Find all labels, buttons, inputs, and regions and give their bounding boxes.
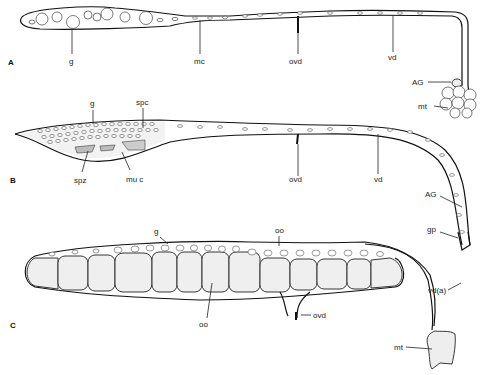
label-a-mc: mc (194, 57, 205, 66)
label-c-vda: vd(a) (428, 286, 447, 295)
panel-label-c: C (10, 321, 16, 330)
oviduct-c-left (280, 292, 288, 316)
label-b-g: g (90, 99, 94, 108)
label-c-mt: mt (394, 343, 404, 352)
label-b-spz: spz (74, 176, 86, 185)
label-b-vd: vd (374, 175, 382, 184)
label-b-spc: spc (136, 98, 148, 107)
label-b-ag: AG (425, 190, 437, 199)
oocytes-c (27, 252, 402, 292)
label-b-ovd: ovd (289, 175, 302, 184)
label-c-oo-bottom: oo (199, 320, 208, 329)
label-a-ovd: ovd (289, 57, 302, 66)
label-a-g: g (69, 57, 73, 66)
oviduct-b (297, 134, 298, 144)
gonad-diagram: A g mc ovd vd AG mt (0, 0, 481, 375)
label-c-g: g (154, 227, 158, 236)
gonad-a-inner (21, 15, 462, 86)
label-b-muc: mu c (126, 175, 143, 184)
label-a-vd: vd (388, 53, 396, 62)
panel-b: B g spc spz mu c ovd vd AG gp (10, 98, 470, 250)
terminal-mass-a (440, 79, 476, 118)
duct-cells-b (178, 125, 465, 234)
panel-c: C g oo oo ovd vd(a) mt (10, 226, 461, 369)
panel-label-a: A (8, 58, 14, 67)
label-a-mt: mt (418, 102, 428, 111)
panel-label-b: B (10, 176, 16, 185)
panel-a: A g mc ovd vd AG mt (8, 7, 476, 118)
label-c-ovd: ovd (313, 311, 326, 320)
germ-cells-a (29, 8, 178, 29)
label-b-gp: gp (427, 225, 436, 234)
label-a-ag: AG (412, 78, 424, 87)
gonad-a-outline (22, 7, 472, 95)
terminal-mass-c (427, 331, 455, 369)
label-c-oo-top: oo (275, 226, 284, 235)
